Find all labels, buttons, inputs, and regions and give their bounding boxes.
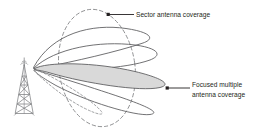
focused-antenna-coverage-label-line2: antenna coverage [192,91,245,99]
diagram-canvas: Sector antenna coverage Focused multiple… [0,0,262,137]
beam-lobe-focused [34,64,165,89]
focused-antenna-coverage-label-line1: Focused multiple [192,81,242,89]
leader-line-sector [107,13,134,16]
beam-lobe-upper-1 [33,27,149,68]
cell-tower [14,58,34,116]
antenna-coverage-diagram: Sector antenna coverage Focused multiple… [0,0,262,137]
sector-antenna-coverage-label: Sector antenna coverage [136,11,210,19]
leader-line-focused [166,86,190,89]
